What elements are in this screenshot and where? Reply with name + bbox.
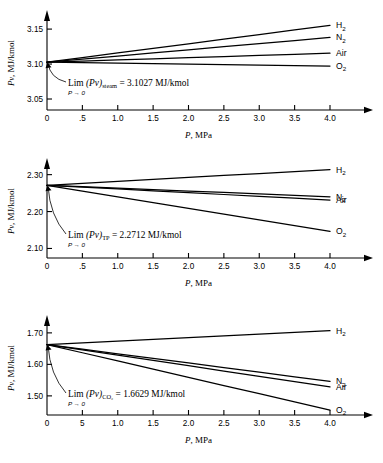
y-tick-label: 1.70 bbox=[27, 329, 43, 338]
x-axis-arrow bbox=[364, 412, 373, 418]
x-tick-label: 1.0 bbox=[112, 262, 124, 271]
curves: H2N2AirO2 bbox=[47, 326, 347, 417]
annotation-text: Lim (Pv)steam = 3.1027 MJ/kmol bbox=[68, 78, 189, 89]
curve-H2 bbox=[47, 170, 330, 186]
curve-label-O2: O2 bbox=[336, 61, 347, 72]
x-tick-label: 3.5 bbox=[289, 262, 301, 271]
x-tick-label: 4.0 bbox=[324, 262, 336, 271]
chart-svg: 0.51.01.52.02.53.03.54.02.102.202.30Pv, … bbox=[0, 148, 383, 298]
x-tick-label: 3.0 bbox=[254, 262, 266, 271]
x-axis-title: P, MPa bbox=[184, 435, 212, 445]
curve-label-N2: N2 bbox=[336, 32, 346, 43]
y-ticks: 2.102.202.30 bbox=[27, 171, 52, 254]
y-axis-title: Pv, MJ/kmol bbox=[6, 187, 16, 235]
pv-vs-p-figure: 0.51.01.52.02.53.03.54.03.053.103.15Pv, … bbox=[0, 0, 383, 463]
curve-label-Air: Air bbox=[336, 48, 347, 58]
annotation-arrowhead bbox=[46, 63, 52, 68]
x-tick-label: .5 bbox=[79, 114, 86, 123]
y-tick-label: 2.20 bbox=[27, 208, 43, 217]
axes bbox=[44, 10, 373, 113]
x-tick-label: 2.0 bbox=[183, 419, 195, 428]
x-tick-label: 2.5 bbox=[218, 262, 230, 271]
y-tick-label: 2.30 bbox=[27, 171, 43, 180]
chart-svg: 0.51.01.52.02.53.03.54.03.053.103.15Pv, … bbox=[0, 0, 383, 150]
annotation-leader bbox=[48, 346, 66, 393]
y-axis-title: Pv, MJ/kmol bbox=[6, 344, 16, 392]
curves: H2N2AirO2 bbox=[47, 165, 347, 238]
annotation-arrowhead bbox=[46, 186, 52, 192]
curve-label-O2: O2 bbox=[336, 226, 347, 237]
x-axis-arrow bbox=[364, 255, 373, 261]
chart-panel-tp: 0.51.01.52.02.53.03.54.02.102.202.30Pv, … bbox=[0, 148, 383, 298]
annotation-limit-condition: P → 0 bbox=[68, 241, 86, 248]
x-axis-title: P, MPa bbox=[184, 278, 212, 288]
limit-annotation: Lim (Pv)TP = 2.2712 MJ/kmolP → 0 bbox=[46, 186, 182, 248]
x-tick-label: 4.0 bbox=[324, 114, 336, 123]
x-tick-label: 5 bbox=[80, 419, 85, 428]
curve-label-H2: H2 bbox=[336, 165, 346, 176]
x-axis-title: P, MPa bbox=[184, 130, 212, 140]
x-ticks: 051.01.52.02.53.03.54.0 bbox=[45, 410, 336, 428]
curve-O2 bbox=[47, 62, 330, 66]
x-ticks: 0.51.01.52.02.53.03.54.0 bbox=[45, 253, 336, 271]
y-tick-label: 3.05 bbox=[27, 95, 43, 104]
chart-panel-co2: 051.01.52.02.53.03.54.01.501.601.70Pv, M… bbox=[0, 305, 383, 455]
curve-Air bbox=[47, 345, 330, 387]
y-axis-arrow bbox=[44, 315, 50, 326]
curve-O2 bbox=[47, 345, 330, 411]
x-tick-label: 0 bbox=[45, 114, 50, 123]
annotation-limit-condition: P → 0 bbox=[68, 89, 86, 96]
curve-label-H2: H2 bbox=[336, 20, 346, 31]
axes bbox=[44, 158, 373, 261]
x-tick-label: 3.5 bbox=[289, 114, 301, 123]
x-tick-label: 0 bbox=[45, 262, 50, 271]
chart-svg: 051.01.52.02.53.03.54.01.501.601.70Pv, M… bbox=[0, 305, 383, 455]
y-axis-arrow bbox=[44, 10, 50, 21]
limit-annotation: Lim (Pv)steam = 3.1027 MJ/kmolP → 0 bbox=[46, 63, 190, 96]
x-ticks: 0.51.01.52.02.53.03.54.0 bbox=[45, 105, 336, 123]
y-tick-label: 3.15 bbox=[27, 25, 43, 34]
annotation-limit-condition: P → 0 bbox=[68, 400, 86, 407]
y-tick-label: 3.10 bbox=[27, 60, 43, 69]
y-tick-label: 1.60 bbox=[27, 360, 43, 369]
x-tick-label: 3.5 bbox=[289, 419, 301, 428]
x-tick-label: 3.0 bbox=[254, 114, 266, 123]
x-tick-label: 1.5 bbox=[147, 419, 159, 428]
chart-panel-steam: 0.51.01.52.02.53.03.54.03.053.103.15Pv, … bbox=[0, 0, 383, 150]
x-tick-label: 3.0 bbox=[254, 419, 266, 428]
curve-label-Air: Air bbox=[336, 195, 347, 205]
y-tick-label: 1.50 bbox=[27, 392, 43, 401]
x-tick-label: 2.5 bbox=[218, 114, 230, 123]
annotation-text: Lim (Pv)CO₂ = 1.6629 MJ/kmol bbox=[68, 389, 186, 400]
x-tick-label: 1.5 bbox=[147, 262, 159, 271]
curve-H2 bbox=[47, 331, 330, 345]
x-tick-label: 2.0 bbox=[183, 114, 195, 123]
annotation-text: Lim (Pv)TP = 2.2712 MJ/kmol bbox=[68, 230, 182, 241]
y-tick-label: 2.10 bbox=[27, 244, 43, 253]
x-tick-label: 2.5 bbox=[218, 419, 230, 428]
x-tick-label: 1.5 bbox=[147, 114, 159, 123]
y-ticks: 1.501.601.70 bbox=[27, 329, 52, 401]
curve-label-Air: Air bbox=[336, 382, 347, 392]
x-tick-label: 2.0 bbox=[183, 262, 195, 271]
x-tick-label: 0 bbox=[45, 419, 50, 428]
annotation-leader bbox=[48, 63, 66, 82]
curve-N2 bbox=[47, 37, 330, 62]
curve-label-H2: H2 bbox=[336, 326, 346, 337]
y-axis-title: Pv, MJ/kmol bbox=[6, 39, 16, 87]
annotation-leader bbox=[48, 186, 66, 234]
curve-N2 bbox=[47, 345, 330, 382]
x-tick-label: 4.0 bbox=[324, 419, 336, 428]
x-tick-label: .5 bbox=[79, 262, 86, 271]
curve-label-O2: O2 bbox=[336, 405, 347, 416]
x-tick-label: 1.0 bbox=[112, 419, 124, 428]
curve-H2 bbox=[47, 25, 330, 62]
curve-Air bbox=[47, 53, 330, 62]
curves: H2N2AirO2 bbox=[47, 20, 347, 72]
x-tick-label: 1.0 bbox=[112, 114, 124, 123]
y-axis-arrow bbox=[44, 158, 50, 169]
x-axis-arrow bbox=[364, 107, 373, 113]
